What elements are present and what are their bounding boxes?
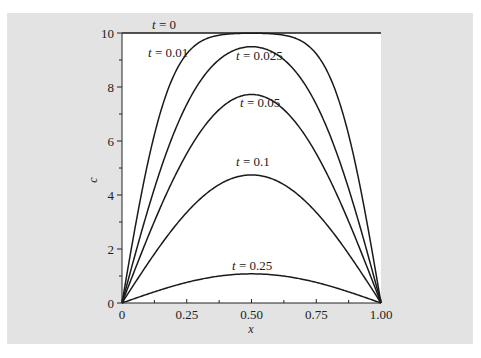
line-chart: 0246810 00.250.500.751.00 x c t = 0t = 0… [0, 0, 481, 358]
x-ticks: 00.250.500.751.00 [119, 299, 393, 322]
y-ticks: 0246810 [101, 26, 122, 311]
curve-label: t = 0.1 [236, 154, 270, 169]
x-tick-label: 0.50 [240, 307, 263, 322]
y-tick-label: 8 [108, 80, 115, 95]
axes: 0246810 00.250.500.751.00 [101, 26, 392, 323]
y-tick-label: 4 [108, 188, 115, 203]
curve-label: t = 0 [152, 17, 176, 32]
x-tick-label: 0.75 [305, 307, 328, 322]
y-tick-label: 0 [108, 296, 115, 311]
y-axis-label: c [86, 177, 100, 183]
y-tick-label: 2 [108, 242, 115, 257]
x-tick-label: 1.00 [370, 307, 393, 322]
curve-t0_25 [122, 274, 381, 303]
curve-label: t = 0.025 [236, 48, 283, 63]
curve-t0_1 [122, 175, 381, 303]
y-tick-label: 6 [108, 134, 115, 149]
curve-label: t = 0.05 [240, 95, 280, 110]
y-tick-label: 10 [101, 26, 114, 41]
x-tick-label: 0.25 [175, 307, 198, 322]
curve-label: t = 0.25 [232, 258, 272, 273]
x-axis-label: x [247, 322, 254, 336]
x-tick-label: 0 [119, 307, 126, 322]
curve-label: t = 0.01 [148, 45, 188, 60]
